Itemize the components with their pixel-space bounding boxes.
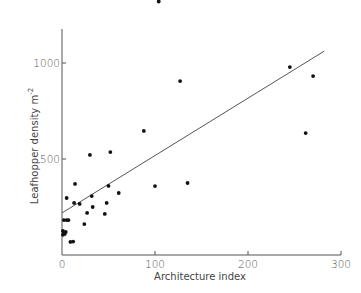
scatter-chart: 0100200300 5001000 Architecture index Le… [0, 0, 361, 293]
data-point [71, 240, 75, 244]
x-axis-title: Architecture index [154, 271, 246, 282]
data-point [105, 201, 109, 205]
x-ticks: 0100200300 [59, 251, 351, 270]
x-tick-label: 100 [145, 258, 165, 270]
data-point [72, 201, 76, 205]
y-axis-title: Leafhopper density m-2 [27, 88, 40, 204]
data-point [311, 74, 315, 78]
x-tick-label: 0 [59, 258, 66, 270]
data-point [85, 211, 89, 215]
data-point [65, 196, 69, 200]
data-point [142, 129, 146, 133]
x-tick-label: 200 [238, 258, 258, 270]
data-point [82, 222, 86, 226]
fit-line [62, 51, 324, 213]
data-point [90, 194, 94, 198]
data-point [288, 65, 292, 69]
data-point [157, 0, 161, 3]
data-point [108, 150, 112, 154]
data-point [153, 184, 157, 188]
data-points [61, 0, 315, 244]
data-point [78, 202, 82, 206]
data-point [304, 131, 308, 135]
data-point [61, 233, 65, 237]
data-point [107, 184, 111, 188]
axes [62, 29, 341, 255]
data-point [117, 191, 121, 195]
y-tick-label: 500 [40, 153, 60, 165]
data-point [67, 218, 71, 222]
data-point [103, 212, 107, 216]
y-tick-label: 1000 [33, 57, 60, 69]
data-point [91, 205, 95, 209]
data-point [73, 182, 77, 186]
x-tick-label: 300 [331, 258, 351, 270]
data-point [64, 230, 68, 234]
regression-line [62, 51, 324, 213]
data-point [178, 79, 182, 83]
data-point [186, 181, 190, 185]
data-point [88, 153, 92, 157]
